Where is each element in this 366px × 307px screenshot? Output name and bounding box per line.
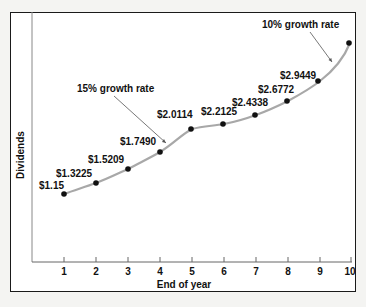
x-tick-label: 6 (221, 266, 227, 277)
x-tick-label: 4 (157, 266, 163, 277)
value-label: $1.7490 (120, 136, 157, 147)
annotation-10-pointer (310, 32, 332, 62)
annotation-15-percent: 15% growth rate (77, 83, 155, 94)
value-label: $2.0114 (157, 109, 193, 120)
data-point (125, 166, 131, 172)
x-axis-title: End of year (157, 279, 212, 290)
value-label: $2.9449 (280, 70, 317, 81)
annotation-10-percent: 10% growth rate (262, 19, 340, 30)
data-point (188, 126, 194, 132)
data-point (284, 98, 290, 104)
value-label: $2.6772 (258, 84, 295, 95)
x-tick-labels: 1 2 3 4 5 6 7 8 9 10 (61, 266, 356, 277)
data-markers (61, 40, 352, 197)
x-tick-label: 3 (125, 266, 131, 277)
value-label: $1.15 (39, 180, 64, 191)
x-tick-label: 8 (285, 266, 291, 277)
data-point (252, 112, 258, 118)
x-tick-label: 1 (61, 266, 67, 277)
y-axis-title: Dividends (15, 131, 26, 179)
value-label: $1.3225 (56, 168, 93, 179)
data-point (61, 191, 67, 197)
value-label: $1.5209 (88, 154, 125, 165)
value-label: $2.4338 (232, 97, 269, 108)
data-point (93, 180, 99, 186)
x-tick-label: 2 (93, 266, 99, 277)
x-tick-label: 7 (253, 266, 259, 277)
data-point (346, 40, 352, 46)
x-tick-label: 10 (344, 266, 356, 277)
dividend-growth-chart: 1 2 3 4 5 6 7 8 9 10 End of year Dividen… (0, 0, 366, 307)
x-tick-label: 5 (189, 266, 195, 277)
data-point (157, 149, 163, 155)
x-ticks (64, 257, 351, 262)
data-point (220, 121, 226, 127)
dividend-curve (64, 43, 350, 194)
x-tick-label: 9 (317, 266, 323, 277)
